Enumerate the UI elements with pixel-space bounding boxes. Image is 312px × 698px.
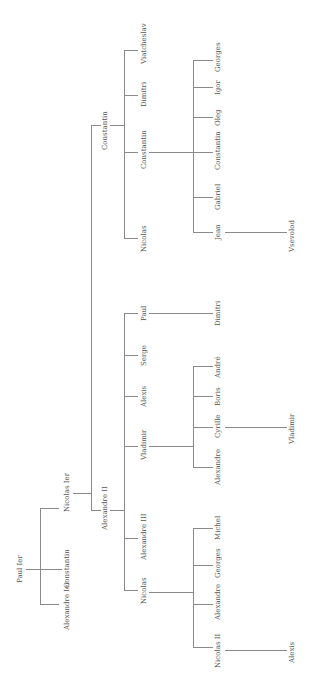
- connector: [124, 355, 138, 356]
- connector: [225, 427, 287, 428]
- connector: [193, 366, 213, 367]
- connector: [193, 366, 194, 467]
- connector: [193, 232, 213, 233]
- node-nicolas: Nicolas: [141, 577, 148, 604]
- node-oleg: Oleg: [215, 109, 222, 126]
- node-nicolas-2: Nicolas II: [215, 634, 222, 668]
- connector: [193, 87, 213, 88]
- connector: [193, 565, 213, 566]
- node-jean: Jean: [215, 224, 222, 240]
- node-serge: Serge: [141, 345, 148, 366]
- connector: [124, 95, 138, 96]
- node-nicolas: Nicolas: [141, 225, 148, 252]
- connector: [124, 238, 138, 239]
- node-alexandre-2: Alexandre II: [102, 486, 109, 530]
- connector: [193, 528, 213, 529]
- connector: [193, 152, 213, 153]
- node-constantin: Constantin: [64, 549, 71, 588]
- node-georges: Georges: [215, 548, 222, 578]
- connector: [124, 446, 138, 447]
- connector: [193, 60, 213, 61]
- node-alexis: Alexis: [289, 642, 296, 663]
- node-andre: André: [215, 356, 222, 378]
- connector: [149, 592, 193, 593]
- connector: [124, 590, 138, 591]
- node-alexandre: Alexandre: [215, 584, 222, 620]
- node-alexandre-3: Alexandre III: [141, 513, 148, 560]
- connector: [193, 528, 194, 647]
- family-tree: Paul Ier Alexandre Ier Constantin Nicola…: [0, 0, 312, 698]
- node-constantin: Constantin: [102, 111, 109, 150]
- connector: [193, 396, 213, 397]
- node-igor: Igor: [215, 80, 222, 95]
- connector: [110, 510, 124, 511]
- node-vsevolod: Vsevolod: [289, 220, 296, 252]
- connector: [193, 197, 213, 198]
- connector: [124, 50, 138, 51]
- connector: [91, 510, 101, 511]
- connector: [193, 604, 213, 605]
- connector: [193, 427, 213, 428]
- node-vladimir: Vladimir: [289, 414, 296, 444]
- connector: [26, 569, 62, 570]
- connector: [225, 650, 287, 651]
- node-viatcheslav: Viatcheslav: [141, 23, 148, 64]
- connector: [149, 313, 213, 314]
- connector: [40, 508, 59, 509]
- connector: [124, 538, 138, 539]
- connector: [193, 467, 213, 468]
- node-dimitri: Dimitri: [141, 82, 148, 107]
- connector: [91, 125, 101, 126]
- connector: [91, 125, 92, 510]
- node-alexandre: Alexandre: [215, 449, 222, 485]
- connector: [149, 446, 193, 447]
- node-michel: Michel: [215, 516, 222, 540]
- node-alexandre-1: Alexandre Ier: [64, 581, 71, 630]
- connector: [124, 396, 138, 397]
- node-vladimir: Vladimir: [141, 430, 148, 460]
- connector: [124, 152, 138, 153]
- connector: [124, 50, 125, 238]
- connector: [193, 60, 194, 232]
- connector: [193, 647, 213, 648]
- connector: [124, 313, 138, 314]
- connector: [149, 152, 193, 153]
- connector: [225, 232, 287, 233]
- node-paul: Paul: [141, 306, 148, 321]
- connector: [193, 117, 213, 118]
- node-cyrille: Cyrille: [215, 414, 222, 438]
- node-constantin: Constantin: [141, 130, 148, 169]
- connector: [73, 493, 91, 494]
- node-alexis: Alexis: [141, 386, 148, 407]
- node-dimitri: Dimitri: [215, 301, 222, 326]
- node-constantin: Constantin: [215, 131, 222, 170]
- node-georges: Georges: [215, 42, 222, 72]
- connector: [110, 125, 124, 126]
- node-nicolas-1: Nicolas Ier: [64, 473, 71, 512]
- node-paul-1: Paul Ier: [17, 555, 24, 583]
- connector: [40, 604, 59, 605]
- node-gabriel: Gabriel: [215, 184, 222, 210]
- connector: [40, 508, 41, 604]
- node-boris: Boris: [215, 387, 222, 406]
